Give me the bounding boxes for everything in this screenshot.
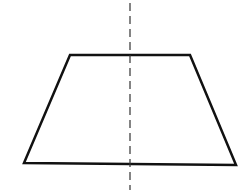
trapezoid-diagram [0, 0, 251, 194]
diagram-canvas [0, 0, 251, 194]
